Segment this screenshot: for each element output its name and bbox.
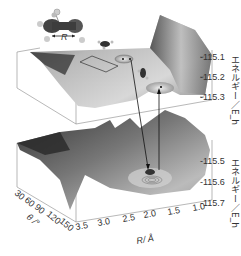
r-axis-label: R/ Å xyxy=(136,233,155,246)
r-tick-1.5: 1.5 xyxy=(167,205,181,217)
upper-z-axis-label: エネルギー／E_h xyxy=(229,55,241,125)
upper-z-tick-2: -115.2 xyxy=(200,72,225,82)
molecule-diagram: R xyxy=(37,9,85,43)
upper-z-axis: -115.1 -115.2 -115.3 xyxy=(200,52,225,102)
r-tick-3.5: 3.5 xyxy=(75,220,89,232)
r-axis: 3.5 3.0 2.5 2.0 1.5 1.0 R/ Å xyxy=(75,201,206,246)
upper-z-tick-3: -115.3 xyxy=(200,92,225,102)
r-tick-1.0: 1.0 xyxy=(192,201,206,213)
r-tick-2.5: 2.5 xyxy=(122,212,136,224)
molecule-label-R: R xyxy=(61,32,68,42)
figure-canvas: R xyxy=(0,0,241,256)
lower-z-tick-2: -115.6 xyxy=(200,177,225,187)
upper-z-tick-1: -115.1 xyxy=(200,52,225,62)
small-molecule-1 xyxy=(98,41,114,50)
r-tick-3.0: 3.0 xyxy=(97,216,111,228)
lower-z-axis-label: エネルギー／E_h xyxy=(229,158,241,228)
lower-surface xyxy=(17,110,210,210)
lower-z-tick-1: -115.5 xyxy=(200,156,225,166)
r-tick-2.0: 2.0 xyxy=(143,208,157,220)
